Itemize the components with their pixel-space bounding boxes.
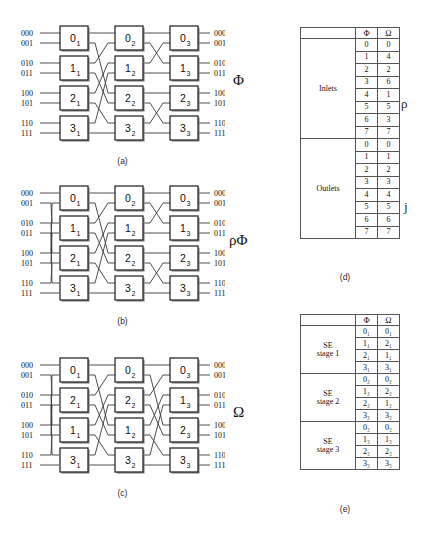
table-e-cell: 3₂ [378, 410, 400, 422]
network-a-svg: 0000010100111001011101110000010100111001… [20, 18, 225, 158]
switch-element[interactable]: 32 [115, 448, 143, 472]
table-d-cell: 5 [378, 201, 400, 214]
switch-element[interactable]: 21 [60, 86, 88, 110]
switch-element[interactable]: 03 [170, 358, 198, 382]
table-e-cell: 3₃ [356, 458, 378, 470]
table-e-cell: 2₂ [356, 398, 378, 410]
switch-label-subscript: 3 [187, 40, 191, 47]
switch-element[interactable]: 23 [170, 246, 198, 270]
table-d-cell: 3 [356, 76, 378, 89]
input-terminal-label: 100 [21, 421, 33, 430]
switch-element[interactable]: 21 [60, 388, 88, 412]
switch-label: 1 [180, 62, 186, 74]
table-e-cell: 3₃ [378, 458, 400, 470]
table-d-inlets-side-label: ρ [401, 96, 408, 112]
switch-element[interactable]: 02 [115, 358, 143, 382]
switch-element[interactable]: 11 [60, 216, 88, 240]
table-d-cell: 4 [356, 89, 378, 102]
switch-element[interactable]: 13 [170, 216, 198, 240]
switch-label: 3 [125, 282, 131, 294]
caption-b: (b) [20, 316, 225, 326]
switch-label: 2 [125, 252, 131, 264]
switch-element[interactable]: 22 [115, 388, 143, 412]
switch-element[interactable]: 01 [60, 26, 88, 50]
table-e-header-row: ΦΩ [301, 315, 400, 326]
network-a-label: Φ [233, 72, 244, 89]
switch-label: 2 [125, 92, 131, 104]
switch-element[interactable]: 31 [60, 448, 88, 472]
switch-label-subscript: 3 [187, 372, 191, 379]
switch-element[interactable]: 03 [170, 26, 198, 50]
output-terminal-label: 110 [214, 279, 225, 288]
switch-element[interactable]: 21 [60, 246, 88, 270]
switch-element[interactable]: 32 [115, 276, 143, 300]
switch-element[interactable]: 13 [170, 388, 198, 412]
network-c-svg: 0000010100111001011101110000010100111001… [20, 350, 225, 490]
switch-label: 0 [125, 32, 131, 44]
switch-element[interactable]: 23 [170, 86, 198, 110]
table-d-cell: 7 [378, 226, 400, 239]
switch-element[interactable]: 11 [60, 418, 88, 442]
table-d-column-header-0: Φ [356, 28, 378, 39]
output-terminal-label: 101 [214, 99, 225, 108]
switch-element[interactable]: 03 [170, 186, 198, 210]
table-e-cell: 3₁ [378, 362, 400, 374]
table-d-cell: 5 [356, 201, 378, 214]
output-terminal-label: 100 [214, 89, 225, 98]
switch-element[interactable]: 01 [60, 186, 88, 210]
switch-element[interactable]: 02 [115, 26, 143, 50]
table-d-section-label-0: Inlets [301, 39, 356, 139]
switch-element[interactable]: 33 [170, 448, 198, 472]
output-terminal-label: 110 [214, 451, 225, 460]
output-terminal-label: 010 [214, 219, 225, 228]
switch-element[interactable]: 33 [170, 276, 198, 300]
switch-label: 0 [125, 364, 131, 376]
table-e-section-label-line2: stage 3 [301, 446, 355, 454]
input-terminal-label: 011 [21, 401, 33, 410]
input-terminal-label: 111 [21, 289, 32, 298]
interstage-link [88, 203, 115, 253]
network-c-label: Ω [233, 404, 244, 421]
switch-label: 2 [125, 394, 131, 406]
input-terminal-label: 111 [21, 461, 32, 470]
input-terminal-label: 001 [21, 39, 33, 48]
input-terminal-label: 001 [21, 371, 33, 380]
output-terminal-label: 001 [214, 39, 225, 48]
output-terminal-label: 011 [214, 69, 225, 78]
switch-element[interactable]: 32 [115, 116, 143, 140]
switch-element[interactable]: 12 [115, 216, 143, 240]
switch-element[interactable]: 22 [115, 246, 143, 270]
output-terminal-label: 101 [214, 431, 225, 440]
table-e-section-label-line2: stage 2 [301, 398, 355, 406]
interstage-link [143, 375, 170, 395]
table-d: ΦΩInlets0014223641556377Outlets001122334… [300, 27, 400, 239]
table-e-cell: 1₁ [378, 350, 400, 362]
switch-element[interactable]: 12 [115, 56, 143, 80]
output-terminal-label: 011 [214, 229, 225, 238]
table-e-section-label-0: SEstage 1 [301, 326, 356, 374]
table-d-cell: 4 [378, 189, 400, 202]
table-d-cell: 6 [356, 214, 378, 227]
input-terminal-label: 110 [21, 451, 33, 460]
switch-element[interactable]: 33 [170, 116, 198, 140]
input-terminal-label: 111 [21, 129, 32, 138]
table-e-cell: 0₂ [378, 374, 400, 386]
switch-element[interactable]: 31 [60, 276, 88, 300]
switch-element[interactable]: 02 [115, 186, 143, 210]
switch-element[interactable]: 01 [60, 358, 88, 382]
switch-label-subscript: 1 [77, 260, 81, 267]
table-e-cell: 0₁ [356, 326, 378, 338]
switch-element[interactable]: 31 [60, 116, 88, 140]
output-terminal-label: 100 [214, 249, 225, 258]
input-terminal-label: 011 [21, 69, 33, 78]
table-d-corner-cell [301, 28, 356, 39]
table-e-section-label-line2: stage 1 [301, 350, 355, 358]
switch-element[interactable]: 12 [115, 418, 143, 442]
switch-element[interactable]: 11 [60, 56, 88, 80]
caption-d: (d) [290, 272, 400, 282]
switch-element[interactable]: 22 [115, 86, 143, 110]
switch-element[interactable]: 13 [170, 56, 198, 80]
interstage-link [88, 263, 115, 283]
switch-element[interactable]: 23 [170, 418, 198, 442]
interstage-link [88, 43, 115, 93]
